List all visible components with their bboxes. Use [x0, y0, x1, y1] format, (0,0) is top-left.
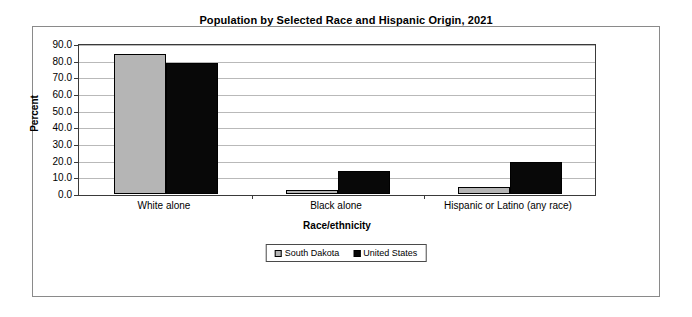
- legend-entry: United States: [353, 248, 417, 258]
- gridline-0.0: [79, 195, 595, 196]
- bar: [458, 187, 510, 195]
- bars-layer: [79, 45, 595, 195]
- x-axis-title: Race/ethnicity: [78, 220, 596, 231]
- bar-group: [286, 44, 390, 194]
- bar: [510, 162, 562, 195]
- plot-area: [78, 44, 596, 196]
- x-tick-label: Hispanic or Latino (any race): [422, 200, 594, 211]
- bar: [166, 63, 218, 194]
- x-axis-tick-labels: White aloneBlack aloneHispanic or Latino…: [78, 200, 596, 214]
- x-tick-label: Black alone: [250, 200, 422, 211]
- bar-group: [458, 44, 562, 194]
- x-tick-mark: [424, 195, 425, 199]
- chart-legend: South DakotaUnited States: [266, 244, 427, 262]
- x-tick-mark: [252, 195, 253, 199]
- chart-title: Population by Selected Race and Hispanic…: [0, 14, 692, 26]
- legend-swatch-icon: [353, 250, 360, 257]
- legend-label: South Dakota: [285, 248, 340, 258]
- bar: [286, 190, 338, 194]
- legend-swatch-icon: [275, 250, 282, 257]
- legend-label: United States: [363, 248, 417, 258]
- legend-entry: South Dakota: [275, 248, 340, 258]
- bar-group: [114, 44, 218, 194]
- x-tick-label: White alone: [78, 200, 250, 211]
- y-axis-title: Percent: [29, 74, 40, 154]
- bar: [114, 54, 166, 194]
- bar: [338, 171, 390, 194]
